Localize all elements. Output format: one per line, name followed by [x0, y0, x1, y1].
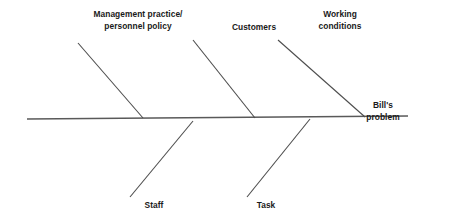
bone-line-customers — [193, 40, 255, 118]
cause-label-line: Customers — [213, 22, 295, 34]
cause-label-line: Management practice/ — [78, 9, 198, 21]
effect-label-line: problem — [352, 112, 414, 124]
cause-label-staff: Staff — [129, 200, 179, 212]
cause-label-customers: Customers — [213, 22, 295, 34]
effect-label-line: Bill's — [352, 100, 414, 112]
bone-line-management-practice-personnel-policy — [78, 43, 143, 118]
spine-line — [27, 116, 408, 119]
cause-label-working-conditions: Workingconditions — [302, 9, 378, 32]
cause-label-line: Task — [241, 200, 291, 212]
cause-label-line: personnel policy — [78, 21, 198, 33]
cause-label-line: conditions — [302, 21, 378, 33]
fishbone-diagram: Management practice/personnel policyCust… — [0, 0, 476, 220]
cause-label-line: Working — [302, 9, 378, 21]
bone-line-staff — [130, 121, 193, 197]
bone-line-task — [247, 119, 310, 197]
effect-label: Bill'sproblem — [352, 100, 414, 123]
cause-label-task: Task — [241, 200, 291, 212]
cause-label-line: Staff — [129, 200, 179, 212]
cause-label-management-practice-personnel-policy: Management practice/personnel policy — [78, 9, 198, 32]
